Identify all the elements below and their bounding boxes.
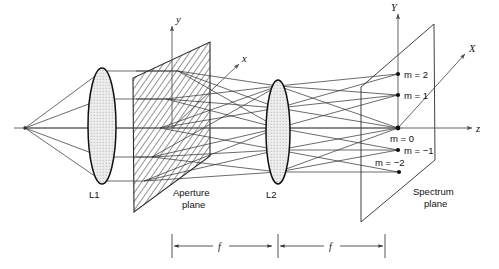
spectrum-plane-label-line1: Spectrum (413, 186, 454, 197)
order-label-mneg1: m = −1 (404, 145, 434, 156)
order-dot-m1 (396, 93, 400, 97)
lens-L1-label: L1 (89, 189, 100, 200)
axis-label-z: z (475, 123, 480, 134)
spectrum-plane-label-line2: plane (424, 198, 447, 209)
lens-L1-body (88, 68, 116, 184)
axis-Y-cap: Y (391, 2, 398, 128)
optical-diagram-figure: y x (0, 0, 499, 269)
order-dot-mneg2 (397, 170, 401, 174)
aperture-plane-label-line2: plane (182, 199, 205, 210)
order-label-m2: m = 2 (404, 69, 428, 80)
dimension-focal-2: f (278, 234, 385, 258)
order-label-mneg2: m = −2 (375, 157, 405, 168)
lens-L2: L2 (266, 80, 290, 200)
axis-label-y-small: y (175, 14, 181, 25)
dimension-focal-1: f (172, 234, 272, 258)
aperture-plane-label: Aperture plane (173, 187, 209, 210)
order-dot-m2 (396, 72, 400, 76)
axis-X-cap: X (398, 43, 476, 128)
order-dot-mneg1 (396, 148, 400, 152)
order-label-m1: m = 1 (404, 90, 428, 101)
order-label-m0: m = 0 (390, 133, 414, 144)
axis-label-X-cap: X (468, 43, 476, 54)
lens-L2-body (266, 80, 290, 184)
aperture-plane-label-line1: Aperture (173, 187, 209, 198)
lens-L2-label: L2 (266, 189, 277, 200)
axis-label-x-small: x (241, 53, 247, 64)
axis-label-Y-cap: Y (391, 2, 398, 13)
lens-L1: L1 (88, 68, 116, 200)
order-dot-m0 (396, 126, 401, 131)
diagram-canvas: y x (0, 0, 499, 269)
spectrum-plane-label: Spectrum plane (413, 186, 454, 209)
